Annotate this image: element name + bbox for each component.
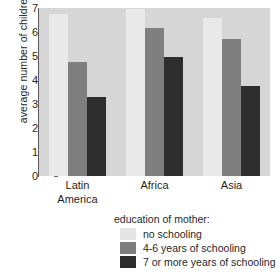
bar <box>241 86 260 176</box>
x-axis-tick-label-line: Latin <box>39 179 116 193</box>
legend-swatch-icon <box>120 228 136 240</box>
x-axis-tick-label-line: America <box>39 193 116 207</box>
bar <box>145 28 164 176</box>
y-axis-tick-labels: 01234567 <box>16 8 38 176</box>
y-axis-tick-label: 2 <box>16 122 38 134</box>
bar <box>203 18 222 176</box>
bar <box>222 39 241 176</box>
legend-item-label: 4-6 years of schooling <box>143 242 246 254</box>
bar-chart-figure: average number of children 01234567 Lati… <box>0 0 280 280</box>
y-axis-tick-label: 5 <box>16 50 38 62</box>
y-axis-tick-label: 4 <box>16 74 38 86</box>
y-axis-tick-label: 1 <box>16 146 38 158</box>
legend-item: 4-6 years of schooling <box>114 242 280 254</box>
legend-swatch-icon <box>120 256 136 268</box>
bar <box>49 14 68 176</box>
plot-area <box>39 8 270 176</box>
y-axis-tick-label: 0 <box>16 170 38 182</box>
y-axis-tick-label: 3 <box>16 98 38 110</box>
x-axis-tick-labels: LatinAmericaAfricaAsia <box>39 179 270 211</box>
x-axis-tick-label: Asia <box>193 179 270 193</box>
legend-swatch-icon <box>120 242 136 254</box>
bar-group <box>39 8 116 176</box>
y-axis-tick-label: 7 <box>16 2 38 14</box>
x-axis-tick-label: LatinAmerica <box>39 179 116 206</box>
x-axis-tick-label-line: Asia <box>193 179 270 193</box>
x-axis-tick-label-line: Africa <box>116 179 193 193</box>
legend-item: no schooling <box>114 228 280 240</box>
bar <box>126 9 145 176</box>
y-axis-tick-mark <box>54 176 58 177</box>
bar <box>87 97 106 176</box>
y-axis-tick-label: 6 <box>16 26 38 38</box>
legend-title: education of mother: <box>114 213 280 225</box>
legend-rows: no schooling4-6 years of schooling7 or m… <box>114 228 280 268</box>
bar <box>68 62 87 176</box>
bar-group <box>116 8 193 176</box>
bar-group <box>193 8 270 176</box>
legend: education of mother: no schooling4-6 yea… <box>114 213 280 270</box>
bar <box>164 57 183 176</box>
legend-item-label: no schooling <box>143 228 202 240</box>
x-axis-tick-label: Africa <box>116 179 193 193</box>
legend-item-label: 7 or more years of schooling <box>143 256 275 268</box>
legend-item: 7 or more years of schooling <box>114 256 280 268</box>
